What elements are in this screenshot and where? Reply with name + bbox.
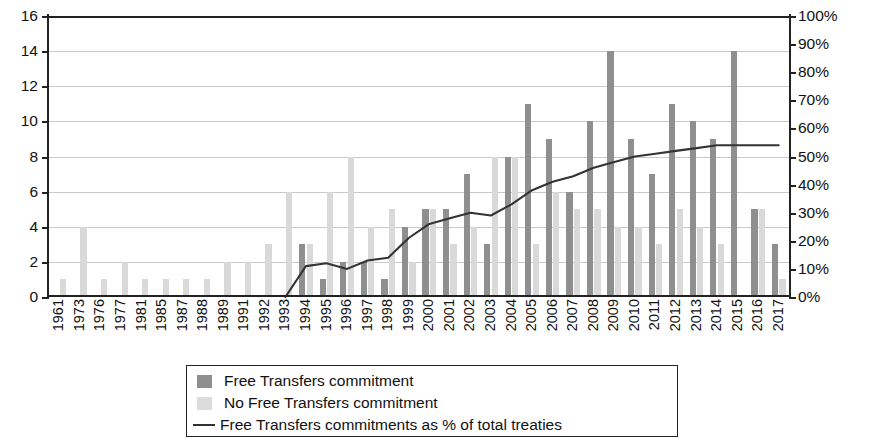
y-tick-label-left: 14 [2, 43, 38, 59]
y-tick-left [42, 262, 47, 264]
x-tick-label: 1976 [92, 299, 107, 331]
y-tick-label-right: 90% [798, 36, 858, 52]
x-tick-label: 2001 [442, 299, 457, 331]
y-tick-left [42, 227, 47, 229]
x-tick-label: 2012 [668, 299, 683, 331]
y-tick-label-left: 4 [2, 219, 38, 235]
x-tick-label: 2007 [565, 299, 580, 331]
y-tick-label-left: 6 [2, 184, 38, 200]
y-tick-right [791, 297, 796, 299]
y-tick-left [42, 192, 47, 194]
legend-label: Free Transfers commitments as % of total… [220, 417, 562, 433]
legend-label: No Free Transfers commitment [224, 395, 438, 411]
y-tick-right [791, 241, 796, 243]
x-tick-label: 1987 [175, 299, 190, 331]
x-tick-label: 1973 [72, 299, 87, 331]
y-tick-right [791, 72, 796, 74]
y-tick-right [791, 269, 796, 271]
y-tick-right [791, 128, 796, 130]
plot-area [49, 16, 789, 297]
x-tick-label: 1997 [360, 299, 375, 331]
y-tick-label-right: 50% [798, 149, 858, 165]
x-tick-label: 2003 [483, 299, 498, 331]
y-tick-label-right: 60% [798, 120, 858, 136]
legend-swatch-light-icon [197, 397, 212, 410]
y-tick-label-right: 20% [798, 233, 858, 249]
y-tick-left [42, 51, 47, 53]
x-tick-label: 2010 [627, 299, 642, 331]
x-tick-label: 2016 [750, 299, 765, 331]
percent-line-series [49, 16, 789, 297]
y-tick-label-right: 70% [798, 92, 858, 108]
x-tick-label: 2017 [771, 299, 786, 331]
x-tick-label: 1998 [380, 299, 395, 331]
x-tick-label: 2008 [586, 299, 601, 331]
x-tick-label: 1961 [51, 299, 66, 331]
x-tick-label: 2004 [504, 299, 519, 331]
x-tick-label: 2002 [462, 299, 477, 331]
y-tick-label-right: 80% [798, 64, 858, 80]
y-tick-label-left: 8 [2, 149, 38, 165]
x-tick-label: 2009 [606, 299, 621, 331]
y-tick-right [791, 185, 796, 187]
y-tick-left [42, 297, 47, 299]
y-tick-right [791, 44, 796, 46]
x-tick-label: 1992 [257, 299, 272, 331]
y-tick-label-left: 12 [2, 78, 38, 94]
y-tick-label-left: 16 [2, 8, 38, 24]
x-tick-label: 2015 [730, 299, 745, 331]
x-tick-label: 2005 [524, 299, 539, 331]
x-tick-label: 1996 [339, 299, 354, 331]
x-tick-label: 1977 [113, 299, 128, 331]
chart-container: 0246810121416 0%10%20%30%40%50%60%70%80%… [0, 0, 875, 444]
x-axis-labels: 1961197319761977198119851987198819891991… [49, 299, 789, 361]
y-tick-left [42, 16, 47, 18]
y-tick-label-left: 2 [2, 254, 38, 270]
y-tick-right [791, 213, 796, 215]
x-tick-label: 1991 [236, 299, 251, 331]
x-tick-label: 1988 [195, 299, 210, 331]
x-tick-label: 1993 [277, 299, 292, 331]
y-tick-label-right: 100% [798, 8, 858, 24]
x-tick-label: 2013 [689, 299, 704, 331]
y-tick-left [42, 157, 47, 159]
x-tick-label: 2000 [421, 299, 436, 331]
y-tick-label-left: 10 [2, 113, 38, 129]
x-tick-label: 1985 [154, 299, 169, 331]
x-tick-label: 2006 [545, 299, 560, 331]
legend-item-free-transfers: Free Transfers commitment [197, 370, 677, 392]
legend-swatch-dark-icon [197, 375, 212, 388]
y-tick-right [791, 16, 796, 18]
y-tick-right [791, 157, 796, 159]
x-tick-label: 1981 [134, 299, 149, 331]
legend-line-icon [193, 424, 215, 426]
x-tick-label: 2011 [647, 299, 662, 330]
y-axis-left [47, 14, 49, 299]
y-tick-label-right: 10% [798, 261, 858, 277]
chart-legend: Free Transfers commitment No Free Transf… [186, 365, 678, 437]
x-tick-label: 1989 [216, 299, 231, 331]
legend-item-no-free-transfers: No Free Transfers commitment [197, 392, 677, 414]
x-tick-label: 2014 [709, 299, 724, 331]
y-tick-right [791, 100, 796, 102]
y-tick-label-right: 40% [798, 177, 858, 193]
legend-item-percent-line: Free Transfers commitments as % of total… [197, 414, 677, 436]
legend-label: Free Transfers commitment [224, 373, 414, 389]
y-tick-left [42, 86, 47, 88]
y-tick-left [42, 121, 47, 123]
y-tick-label-right: 30% [798, 205, 858, 221]
x-tick-label: 1999 [401, 299, 416, 331]
y-tick-label-right: 0% [798, 289, 858, 305]
x-tick-label: 1995 [319, 299, 334, 331]
x-tick-label: 1994 [298, 299, 313, 331]
plot-bottom-border [49, 295, 789, 297]
y-tick-label-left: 0 [2, 289, 38, 305]
